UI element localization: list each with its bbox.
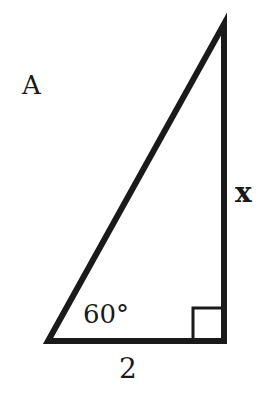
figure-label: A — [21, 70, 42, 100]
right-angle-marker — [193, 308, 224, 341]
angle-label: 60° — [83, 299, 129, 329]
diagram-canvas: A 60° 2 x — [0, 0, 272, 394]
right-triangle — [48, 24, 224, 341]
base-label: 2 — [119, 352, 137, 385]
side-label: x — [235, 176, 252, 209]
